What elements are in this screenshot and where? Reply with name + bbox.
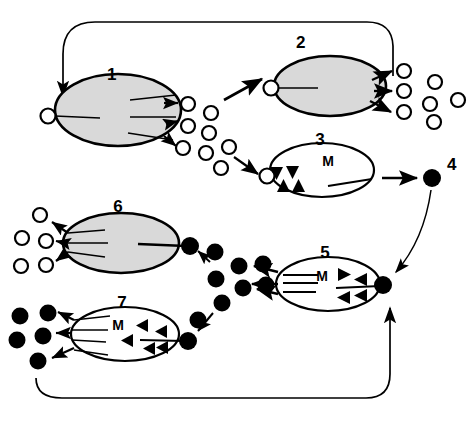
filled-dot bbox=[9, 332, 26, 349]
filled-dot bbox=[30, 353, 47, 370]
open-circle bbox=[397, 105, 411, 119]
open-circle bbox=[181, 97, 195, 111]
filled-dot bbox=[35, 328, 52, 345]
stage-3-label: 3 bbox=[315, 130, 324, 149]
stage-7-label: 7 bbox=[117, 293, 126, 312]
filled-dot bbox=[231, 258, 248, 275]
open-circle bbox=[199, 146, 213, 160]
filled-dots-stage7-output bbox=[9, 305, 57, 370]
stage-7-group[interactable]: M 7 bbox=[71, 293, 197, 361]
open-circle bbox=[33, 208, 47, 222]
open-circle bbox=[15, 231, 29, 245]
open-circle bbox=[397, 64, 411, 78]
stage-4-group[interactable]: 4 bbox=[423, 155, 457, 187]
open-circle bbox=[14, 259, 28, 273]
open-circle bbox=[39, 258, 53, 272]
open-circle bbox=[427, 115, 441, 129]
open-circle bbox=[202, 126, 216, 140]
stage-4-to-5-arrow bbox=[396, 190, 431, 272]
open-circle bbox=[423, 97, 437, 111]
stage-6-label: 6 bbox=[113, 197, 122, 216]
open-circle bbox=[214, 161, 228, 175]
open-circles-stage2-output bbox=[397, 64, 465, 129]
transition-arrows-upper bbox=[224, 79, 262, 174]
open-circle bbox=[428, 75, 442, 89]
filled-dot bbox=[208, 271, 225, 288]
open-circle bbox=[451, 93, 465, 107]
open-circle bbox=[204, 106, 218, 120]
stage-1-label: 1 bbox=[107, 65, 116, 84]
open-circle bbox=[181, 119, 195, 133]
figure-canvas: 1 2 bbox=[0, 0, 476, 432]
arrow-to-stage-3 bbox=[234, 157, 258, 174]
stage-2-cell[interactable] bbox=[274, 56, 386, 116]
stage-1-group[interactable]: 1 bbox=[41, 65, 182, 146]
stage-6-group[interactable]: 6 bbox=[63, 197, 199, 273]
stage-4-cell[interactable] bbox=[423, 169, 441, 187]
open-circle bbox=[222, 140, 236, 154]
open-circle bbox=[176, 141, 190, 155]
filled-dot bbox=[12, 308, 29, 325]
stage-5-label: 5 bbox=[320, 243, 329, 262]
stage-3-mitosis-marker: M bbox=[322, 153, 334, 169]
filled-dot bbox=[235, 280, 252, 297]
stage-1-attached-circle bbox=[41, 109, 56, 124]
cell-cycle-diagram: 1 2 bbox=[0, 0, 476, 432]
stage-2-label: 2 bbox=[296, 33, 305, 52]
stage-5-group[interactable]: M 5 bbox=[276, 243, 392, 311]
stage-2-group[interactable]: 2 bbox=[264, 33, 387, 116]
filled-dot bbox=[255, 256, 272, 273]
stage-4-label: 4 bbox=[447, 155, 457, 174]
filled-dot bbox=[258, 277, 275, 294]
open-circles-stage1-output bbox=[176, 97, 236, 175]
open-circle bbox=[397, 84, 411, 98]
filled-dot bbox=[207, 244, 224, 261]
stage-2-attached-circle bbox=[264, 81, 279, 96]
stage-5-mitosis-marker: M bbox=[316, 268, 328, 284]
stage-3-group[interactable]: M 3 bbox=[260, 130, 375, 197]
stage-5-attached-dot bbox=[374, 276, 392, 294]
filled-dot bbox=[214, 295, 231, 312]
open-circles-stage6-output bbox=[14, 208, 53, 273]
arrow-to-stage-2 bbox=[224, 79, 262, 100]
stage-7-mitosis-marker: M bbox=[112, 317, 124, 333]
filled-dot bbox=[190, 312, 207, 329]
open-circle bbox=[39, 234, 53, 248]
stage-1-cell[interactable] bbox=[55, 74, 181, 146]
filled-dot bbox=[40, 305, 57, 322]
